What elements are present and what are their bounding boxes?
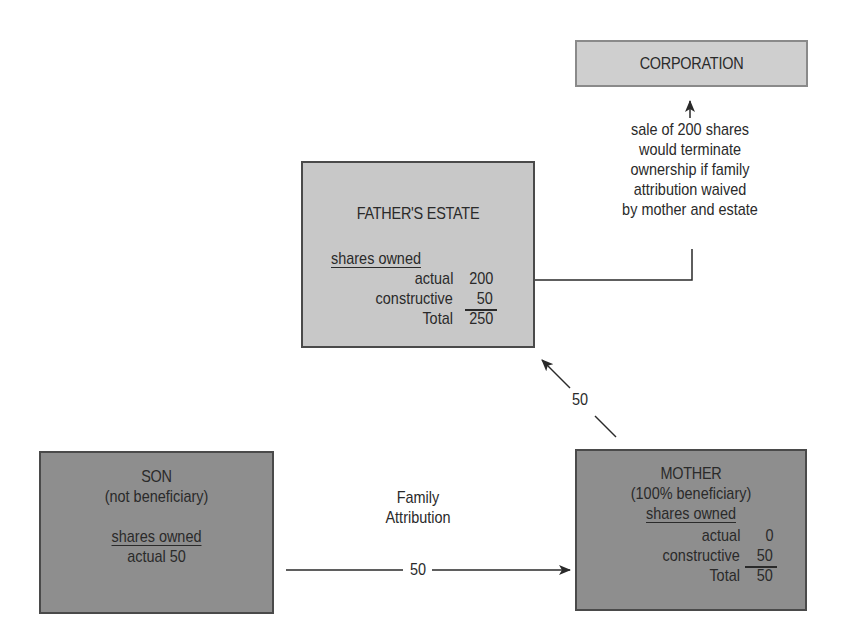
row-value: 50 (477, 289, 493, 309)
son-title: SON (58, 467, 254, 487)
family-attribution-line1: Family (367, 488, 469, 508)
row-value: 250 (469, 309, 493, 329)
mother-box: MOTHER (100% beneficiary) shares owned a… (575, 449, 807, 611)
son-subtitle: (not beneficiary) (58, 487, 254, 507)
mother-subtitle: (100% beneficiary) (594, 484, 788, 504)
row-label: constructive (663, 546, 740, 566)
note-line: would terminate (597, 140, 784, 160)
row-value: 200 (469, 269, 493, 289)
row-label: actual (414, 269, 453, 289)
mother-to-estate-line-lower (595, 416, 616, 437)
shares-heading: shares owned (331, 249, 421, 269)
family-attribution-label: Family Attribution (367, 488, 469, 528)
estate-to-corporation-connector (523, 249, 692, 280)
spacer (58, 507, 254, 527)
row-label: Total (422, 309, 453, 329)
note-line: attribution waived (597, 180, 784, 200)
row-label: Total (709, 566, 740, 586)
fathers-estate-title: FATHER'S ESTATE (320, 204, 516, 224)
son-box: SON (not beneficiary) shares owned actua… (39, 451, 274, 614)
mother-shares-heading: shares owned (594, 504, 788, 524)
mother-shares: actual 0 constructive 50 Total 50 (597, 526, 787, 586)
note-line: sale of 200 shares (597, 120, 784, 140)
son-shares-heading: shares owned (58, 527, 254, 547)
note-line: ownership if family (597, 160, 784, 180)
row-label: constructive (376, 289, 453, 309)
row-value: 50 (757, 546, 773, 566)
total-divider (465, 309, 497, 311)
mother-title: MOTHER (594, 464, 788, 484)
mother-to-estate-arrow (542, 360, 570, 388)
corporation-box: CORPORATION (575, 40, 808, 87)
note-line: by mother and estate (597, 200, 784, 220)
family-attribution-line2: Attribution (367, 508, 469, 528)
fathers-estate-shares: shares owned actual 200 constructive 50 … (331, 249, 511, 329)
row-label: actual (701, 526, 740, 546)
corporation-title: CORPORATION (594, 54, 789, 74)
fathers-estate-box: FATHER'S ESTATE shares owned actual 200 … (301, 161, 535, 348)
total-divider (745, 566, 777, 568)
row-value: 50 (757, 566, 773, 586)
termination-note: sale of 200 shares would terminate owner… (580, 120, 800, 220)
son-to-mother-amount: 50 (405, 560, 431, 580)
mother-to-estate-amount: 50 (567, 390, 593, 410)
row-value: 0 (765, 526, 773, 546)
son-actual-shares: actual 50 (58, 547, 254, 567)
